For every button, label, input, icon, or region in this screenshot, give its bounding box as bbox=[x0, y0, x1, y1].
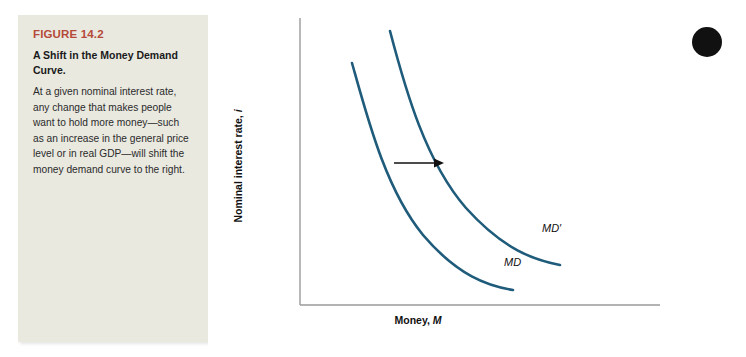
curve-label-md-prime: MD′ bbox=[542, 222, 561, 234]
y-axis-label-symbol: i bbox=[232, 109, 244, 112]
chart-plot-area: Nominal interest rate, i Money, M MD MD′ bbox=[208, 0, 668, 357]
figure-description: At a given nominal interest rate, any ch… bbox=[33, 84, 192, 177]
curve-md-prime bbox=[390, 31, 560, 265]
y-axis-label-text: Nominal interest rate, bbox=[232, 112, 244, 222]
x-axis-label-text: Money, bbox=[394, 314, 432, 326]
money-demand-chart-svg bbox=[208, 0, 668, 357]
x-axis-label: Money, M bbox=[303, 314, 533, 326]
figure-caption-panel: FIGURE 14.2 A Shift in the Money Demand … bbox=[18, 15, 208, 342]
x-axis-label-symbol: M bbox=[433, 314, 442, 326]
figure-container: FIGURE 14.2 A Shift in the Money Demand … bbox=[0, 0, 746, 357]
shift-right-arrow-icon bbox=[394, 159, 444, 168]
curve-label-md: MD bbox=[504, 256, 521, 268]
black-circle-bullet-icon bbox=[692, 27, 722, 57]
figure-number: FIGURE 14.2 bbox=[33, 28, 192, 41]
y-axis-label: Nominal interest rate, i bbox=[232, 76, 244, 256]
figure-title: A Shift in the Money Demand Curve. bbox=[33, 48, 192, 77]
curve-md bbox=[352, 63, 513, 290]
